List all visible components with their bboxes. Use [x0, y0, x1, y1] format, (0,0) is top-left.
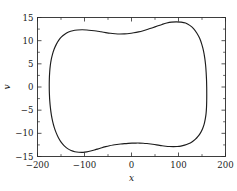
x-tick-label: 0 [129, 160, 134, 170]
axes-frame [38, 18, 226, 157]
orbit-curve [49, 22, 207, 152]
plot-frame [38, 18, 226, 157]
y-tick-label: −10 [15, 128, 33, 138]
y-tick-label: 15 [23, 13, 34, 23]
y-axis-minor-ticks [38, 29, 226, 145]
y-tick-label: −15 [15, 152, 33, 162]
x-tick-label: 100 [170, 160, 186, 170]
data-series-group [49, 22, 207, 152]
phase-portrait-chart: −200−1000100200 −15−10−5051015 x v [0, 0, 237, 191]
x-tick-label: 200 [217, 160, 233, 170]
y-tick-label: −5 [21, 105, 34, 115]
y-axis-tick-labels: −15−10−5051015 [15, 13, 33, 162]
y-axis-major-ticks [38, 18, 226, 157]
figure-container: −200−1000100200 −15−10−5051015 x v [0, 0, 237, 191]
x-tick-label: −100 [73, 160, 97, 170]
y-tick-label: 0 [28, 82, 33, 92]
x-axis-tick-labels: −200−1000100200 [26, 160, 234, 170]
x-axis-minor-ticks [61, 18, 202, 157]
y-axis-title: v [2, 84, 12, 89]
y-tick-label: 5 [28, 59, 33, 69]
x-axis-title: x [129, 173, 134, 183]
x-axis-major-ticks [38, 18, 226, 157]
y-tick-label: 10 [23, 36, 34, 46]
